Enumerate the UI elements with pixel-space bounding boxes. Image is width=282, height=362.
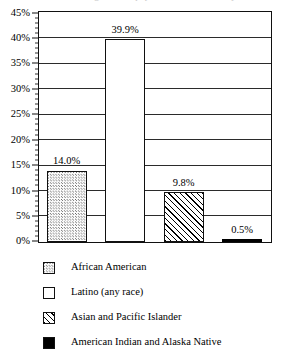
y-axis-labels: 0%5%10%15%20%25%30%35%40%45% xyxy=(0,11,30,243)
gridline-40 xyxy=(39,37,271,38)
legend-label-4: American Indian and Alaska Native xyxy=(71,337,221,348)
y-axis-label-20: 20% xyxy=(11,134,30,145)
bar-1 xyxy=(47,171,87,242)
legend-item-3: Asian and Pacific Islander xyxy=(43,305,279,330)
y-axis-label-15: 15% xyxy=(11,160,30,171)
legend-swatch-4 xyxy=(43,337,55,349)
legend-item-1: African American xyxy=(43,255,279,280)
plot-area: 14.0%39.9%9.8%0.5% xyxy=(38,11,272,243)
legend-swatch-2 xyxy=(43,287,55,299)
bar-2 xyxy=(105,39,145,242)
chart-legend: African AmericanLatino (any race)Asian a… xyxy=(43,255,279,355)
y-axis-label-40: 40% xyxy=(11,33,30,44)
chart-title: Percentage of U.S. population that is mi… xyxy=(34,0,264,1)
bar-value-label-4: 0.5% xyxy=(231,225,253,236)
y-axis-label-5: 5% xyxy=(16,211,30,222)
legend-label-3: Asian and Pacific Islander xyxy=(71,312,182,323)
gridline-20 xyxy=(39,139,271,140)
y-axis-label-45: 45% xyxy=(11,7,30,18)
bar-value-label-2: 39.9% xyxy=(112,25,139,36)
legend-item-2: Latino (any race) xyxy=(43,280,279,305)
y-axis-label-0: 0% xyxy=(16,236,30,247)
gridline-35 xyxy=(39,63,271,64)
y-axis-label-30: 30% xyxy=(11,84,30,95)
y-axis-label-10: 10% xyxy=(11,185,30,196)
bar-3 xyxy=(164,192,204,242)
bar-value-label-1: 14.0% xyxy=(53,156,80,167)
y-axis-label-35: 35% xyxy=(11,58,30,69)
legend-label-1: African American xyxy=(71,262,147,273)
gridline-25 xyxy=(39,114,271,115)
legend-swatch-3 xyxy=(43,312,55,324)
y-axis-label-25: 25% xyxy=(11,109,30,120)
legend-label-2: Latino (any race) xyxy=(71,287,143,298)
gridline-30 xyxy=(39,88,271,89)
legend-item-4: American Indian and Alaska Native xyxy=(43,330,279,355)
bar-4 xyxy=(222,239,262,242)
legend-swatch-1 xyxy=(43,262,55,274)
bar-value-label-3: 9.8% xyxy=(173,178,195,189)
